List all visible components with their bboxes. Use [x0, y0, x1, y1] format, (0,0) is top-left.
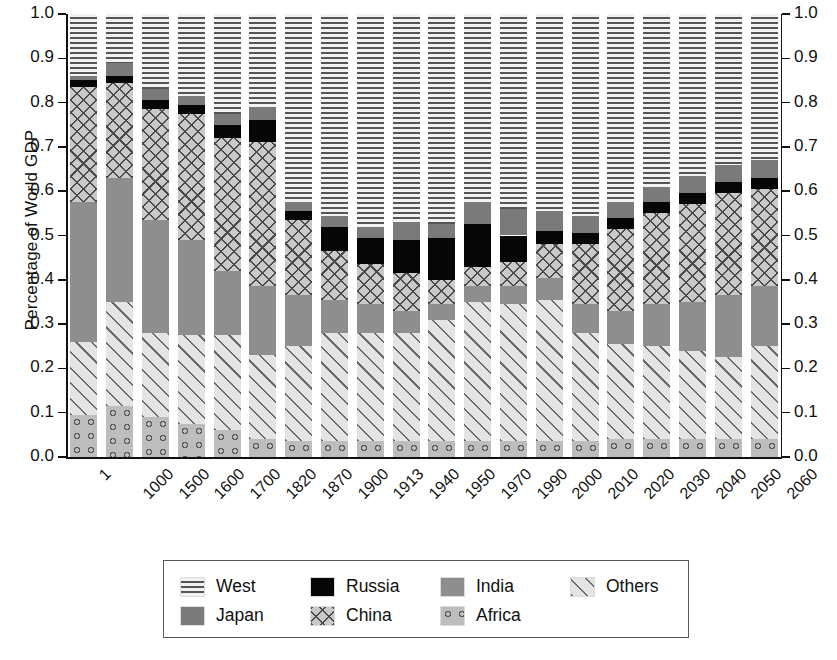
bar-segment-west — [214, 14, 241, 114]
bar-segment-china — [357, 264, 384, 304]
legend-label: Africa — [476, 605, 521, 626]
chart-figure: Percentage of World GDP 1.00.90.80.70.60… — [0, 0, 837, 660]
bar-segment-russia — [572, 233, 599, 244]
bar-segment-others — [751, 346, 778, 439]
legend-item-india: India — [440, 576, 570, 597]
y-tick-label-left: 0.2 — [30, 357, 54, 377]
bar-segment-japan — [214, 114, 241, 125]
stacked-bar — [178, 14, 205, 457]
bar-segment-russia — [428, 238, 455, 280]
y-tick-label-left: 0.0 — [30, 446, 54, 466]
y-tick-mark-right — [782, 190, 790, 192]
bar-segment-africa — [106, 406, 133, 457]
bar-segment-africa — [214, 430, 241, 457]
bar-segment-japan — [643, 187, 670, 203]
x-tick-label: 2060 — [784, 465, 822, 503]
y-tick-mark-right — [782, 13, 790, 15]
bar-segment-russia — [679, 193, 706, 204]
bar-segment-japan — [106, 63, 133, 76]
bar-segment-china — [607, 229, 634, 311]
y-tick-label-right: 0.9 — [794, 47, 818, 67]
bar-segment-russia — [536, 231, 563, 244]
bar-segment-japan — [249, 107, 276, 120]
x-tick-label: 1870 — [318, 465, 356, 503]
bar-segment-china — [214, 138, 241, 271]
stacked-bar — [572, 14, 599, 457]
legend-item-africa: Africa — [440, 605, 570, 626]
bar-segment-west — [249, 14, 276, 107]
stacked-bar — [679, 14, 706, 457]
bar-segment-china — [142, 109, 169, 220]
x-tick-label: 1820 — [282, 465, 320, 503]
y-tick-label-left: 0.3 — [30, 313, 54, 333]
bar-segment-india — [393, 311, 420, 333]
bar-segment-india — [357, 304, 384, 333]
bar-segment-africa — [500, 441, 527, 457]
legend-label: Japan — [216, 605, 264, 626]
legend-label: Russia — [346, 576, 400, 597]
y-tick-label-right: 0.2 — [794, 357, 818, 377]
stacked-bar — [607, 14, 634, 457]
x-tick-label: 1700 — [247, 465, 285, 503]
legend-swatch-china-icon — [310, 606, 335, 626]
y-tick-mark-left — [58, 13, 66, 15]
bar-segment-africa — [751, 439, 778, 457]
bar-segment-japan — [751, 160, 778, 178]
bar-segment-japan — [464, 202, 491, 224]
y-tick-mark-right — [782, 456, 790, 458]
stacked-bar — [536, 14, 563, 457]
bar-segment-india — [679, 302, 706, 351]
y-tick-mark-right — [782, 279, 790, 281]
legend-swatch-india-icon — [440, 577, 465, 597]
bar-segment-west — [500, 14, 527, 209]
bar-segment-africa — [464, 441, 491, 457]
bar-segment-others — [249, 355, 276, 439]
stacked-bar — [500, 14, 527, 457]
y-tick-mark-right — [782, 146, 790, 148]
bar-segment-africa — [643, 439, 670, 457]
bar-segment-india — [536, 278, 563, 300]
bar-segment-india — [142, 220, 169, 333]
bar-segment-west — [536, 14, 563, 211]
stacked-bar — [715, 14, 742, 457]
bar-segment-japan — [715, 165, 742, 183]
bar-segment-china — [428, 280, 455, 304]
bar-segment-china — [572, 244, 599, 304]
bar-segment-india — [643, 304, 670, 346]
bar-segment-west — [321, 14, 348, 216]
legend-label: China — [346, 605, 392, 626]
bar-segment-west — [70, 14, 97, 76]
bar-segment-russia — [321, 227, 348, 251]
y-tick-label-left: 0.7 — [30, 136, 54, 156]
bar-segment-russia — [285, 211, 312, 220]
x-tick-label: 2020 — [640, 465, 678, 503]
bar-segment-india — [249, 286, 276, 355]
bar-segment-china — [464, 267, 491, 287]
bar-segment-africa — [679, 439, 706, 457]
stacked-bar — [643, 14, 670, 457]
bar-segment-west — [679, 14, 706, 176]
bar-segment-africa — [178, 424, 205, 457]
y-tick-label-right: 0.8 — [794, 92, 818, 112]
bar-segment-japan — [607, 202, 634, 218]
legend-swatch-russia-icon — [310, 577, 335, 597]
bar-segment-japan — [428, 224, 455, 237]
x-tick-label: 2030 — [676, 465, 714, 503]
y-tick-label-left: 0.8 — [30, 92, 54, 112]
bar-segment-others — [106, 302, 133, 406]
bar-segment-japan — [572, 216, 599, 234]
legend-label: Others — [606, 576, 659, 597]
y-tick-label-right: 1.0 — [794, 3, 818, 23]
bar-segment-others — [321, 333, 348, 442]
bar-segment-others — [715, 357, 742, 439]
legend-item-japan: Japan — [180, 605, 310, 626]
bar-segment-russia — [643, 202, 670, 213]
y-tick-mark-left — [58, 146, 66, 148]
bar-segment-west — [393, 14, 420, 222]
bar-segment-others — [500, 304, 527, 441]
y-tick-mark-left — [58, 368, 66, 370]
y-tick-mark-right — [782, 235, 790, 237]
bar-segment-china — [751, 189, 778, 286]
legend-label: India — [476, 576, 514, 597]
bar-segment-china — [321, 251, 348, 300]
